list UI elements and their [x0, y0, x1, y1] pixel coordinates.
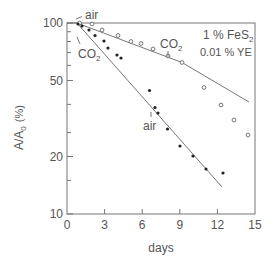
- x-tick-15: 15: [248, 218, 262, 232]
- y-axis-label-unit: (%): [13, 105, 25, 122]
- y-axis-label-main: A/A: [12, 131, 26, 150]
- annot-air-top: air: [85, 8, 98, 22]
- legend-line-2: 0.01 % YE: [200, 46, 252, 58]
- chart: 10 20 50 100 0 3 6 9 12 15 days A/A0(%): [0, 0, 276, 267]
- x-axis-label: days: [148, 241, 173, 255]
- x-tick-12: 12: [211, 218, 225, 232]
- co2-left-arrow: [77, 37, 80, 44]
- legend: 1 % FeS2 0.01 % YE: [200, 28, 254, 58]
- y-tick-20: 20: [50, 150, 64, 164]
- air-top-arrow: [76, 17, 82, 20]
- annotations: air CO2 CO2 air: [76, 8, 183, 133]
- svg-text:A/A0(%): A/A0(%): [12, 105, 28, 150]
- y-axis-label-sub: 0: [19, 126, 28, 131]
- annot-air-bottom: air: [143, 119, 156, 133]
- x-tick-0: 0: [64, 218, 71, 232]
- x-tick-9: 9: [176, 218, 183, 232]
- x-tick-3: 3: [101, 218, 108, 232]
- annot-co2-left: CO2: [78, 47, 101, 63]
- y-axis-label: A/A0(%): [12, 105, 28, 150]
- y-tick-10: 10: [50, 207, 64, 221]
- y-tick-50: 50: [50, 74, 64, 88]
- x-axis-ticks: [105, 209, 218, 214]
- legend-line-1: 1 % FeS2: [203, 28, 254, 44]
- annot-co2-right: CO2: [160, 37, 183, 53]
- x-tick-6: 6: [139, 218, 146, 232]
- x-tick-labels: 0 3 6 9 12 15: [64, 218, 262, 232]
- y-axis-ticks: [67, 23, 73, 214]
- y-tick-100: 100: [43, 16, 63, 30]
- y-tick-labels: 10 20 50 100: [43, 16, 63, 221]
